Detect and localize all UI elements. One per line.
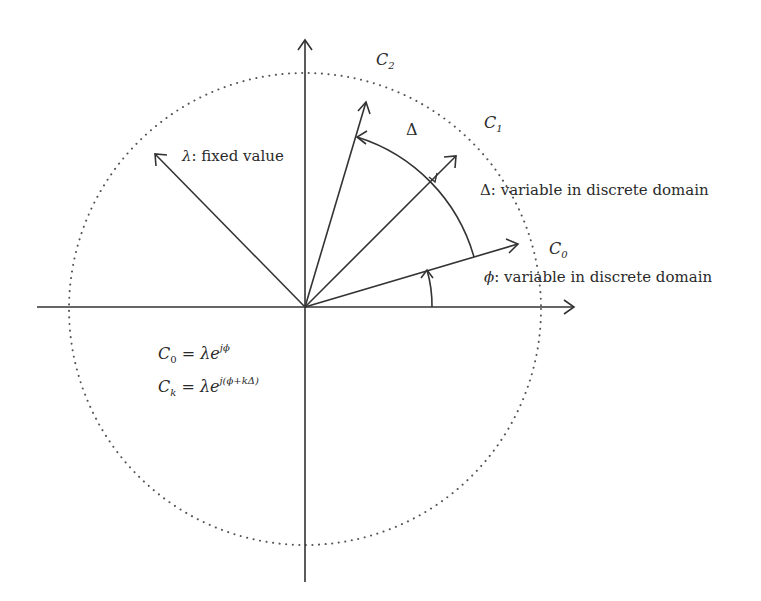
- label-delta-note: Δ: variable in discrete domain: [480, 183, 709, 198]
- phi-arc-arrow-icon: [421, 270, 433, 278]
- equation-c0: C0 = λejϕ: [158, 346, 230, 362]
- label-c1: C1: [484, 115, 503, 131]
- label-delta-arc: Δ: [406, 122, 418, 138]
- label-lambda-note: λ: fixed value: [182, 149, 284, 164]
- phasor-diagram: [0, 0, 761, 601]
- equation-ck: Ck = λej(ϕ+kΔ): [158, 379, 259, 395]
- delta-arc-arrow-icon: [357, 131, 367, 144]
- label-c0: C0: [549, 241, 568, 257]
- vector-lambda: [155, 154, 305, 307]
- label-c2: C2: [376, 52, 395, 68]
- label-phi-note: ϕ: variable in discrete domain: [484, 270, 712, 285]
